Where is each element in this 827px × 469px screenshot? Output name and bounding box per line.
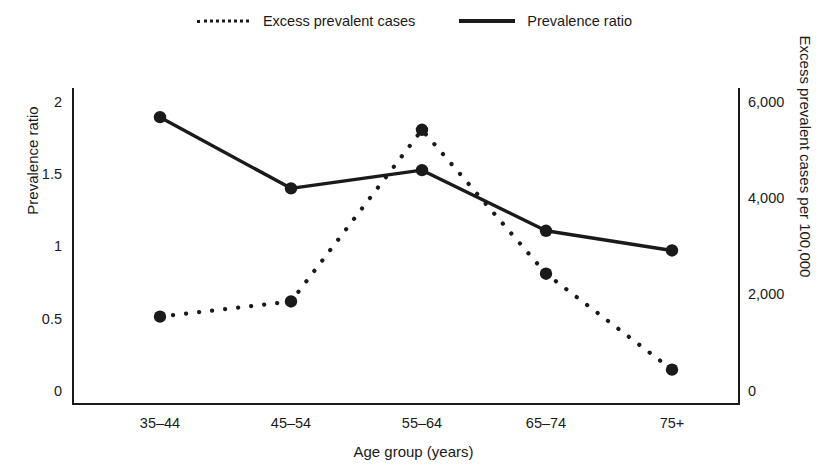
data-point [154, 111, 166, 123]
data-point [285, 182, 297, 194]
x-tick-45-54: 45–54 [271, 416, 311, 431]
y-left-tick-1-5: 1.5 [42, 167, 62, 182]
data-point [285, 295, 297, 307]
x-axis-title: Age group (years) [0, 443, 827, 460]
legend-item-prevalence-ratio: Prevalence ratio [459, 13, 632, 29]
data-point [416, 124, 428, 136]
y-right-axis-title: Excess prevalent cases per 100,000 [797, 0, 814, 327]
series-line-excess-prevalent-cases [160, 130, 672, 370]
data-point [540, 268, 552, 280]
y-right-tick-2000: 2,000 [748, 287, 784, 302]
legend-label-prevalence-ratio: Prevalence ratio [527, 13, 632, 29]
data-point [666, 244, 678, 256]
legend-item-excess-prevalent-cases: Excess prevalent cases [195, 13, 415, 29]
solid-line-icon [459, 15, 515, 27]
y-right-tick-4000: 4,000 [748, 191, 784, 206]
y-right-tick-0: 0 [748, 384, 756, 399]
data-point [154, 310, 166, 322]
y-left-tick-2: 2 [54, 95, 62, 110]
y-left-tick-1: 1 [54, 239, 62, 254]
dotted-line-icon [195, 15, 251, 27]
y-left-tick-0-5: 0.5 [42, 312, 62, 327]
series-line-prevalence-ratio [160, 117, 672, 250]
x-tick-65-74: 65–74 [526, 416, 566, 431]
y-left-tick-0: 0 [54, 384, 62, 399]
data-point [666, 363, 678, 375]
data-point [540, 225, 552, 237]
data-point [416, 164, 428, 176]
legend-label-excess-prevalent-cases: Excess prevalent cases [263, 13, 415, 29]
x-tick-35-44: 35–44 [140, 416, 180, 431]
chart-container: Excess prevalent cases Prevalence ratio … [0, 0, 827, 469]
y-right-tick-6000: 6,000 [748, 95, 784, 110]
chart-legend: Excess prevalent cases Prevalence ratio [0, 6, 827, 36]
plot-series-layer [72, 88, 740, 405]
x-tick-75-plus: 75+ [660, 416, 685, 431]
y-left-axis-title: Prevalence ratio [24, 41, 41, 281]
x-tick-55-64: 55–64 [402, 416, 442, 431]
